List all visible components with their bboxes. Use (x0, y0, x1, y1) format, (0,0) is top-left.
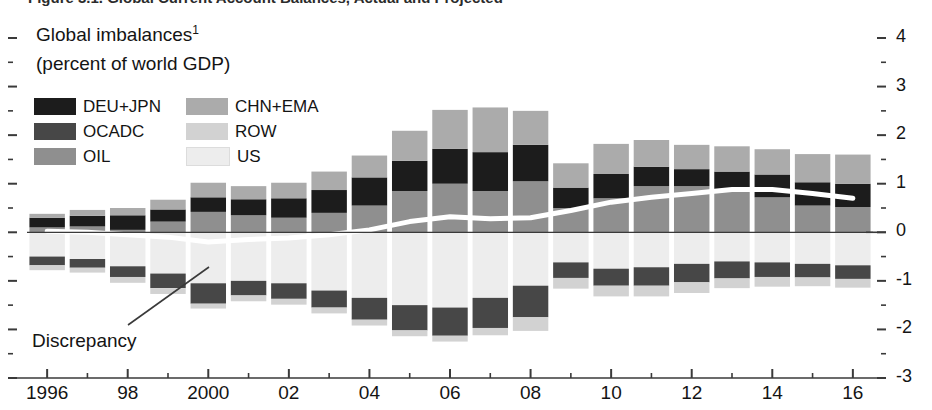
bar-segment-deu-jpn (150, 209, 185, 221)
bar-segment-ocadc (714, 261, 749, 278)
bar-segment-deu-jpn (311, 190, 346, 213)
bar-segment-oil (231, 215, 266, 232)
bar-segment-us (473, 232, 508, 298)
bar-segment-chn-ema (311, 172, 346, 190)
bar-segment-us (553, 232, 588, 262)
bar-segment-row (835, 279, 870, 288)
legend-swatch-oil (34, 148, 76, 165)
chart-title-line1: Global imbalances1 (36, 23, 199, 46)
bar-group (311, 172, 346, 314)
bar-segment-row (70, 268, 105, 273)
bar-segment-chn-ema (150, 200, 185, 210)
legend-label-ocadc: OCADC (83, 123, 144, 140)
legend-swatch-row (186, 123, 228, 140)
bar-segment-row (593, 286, 628, 297)
legend-swatch-us (186, 147, 230, 166)
y-tick-label: -3 (896, 366, 912, 387)
bar-segment-us (795, 232, 830, 264)
bar-segment-row (392, 330, 427, 336)
bar-group (473, 107, 508, 335)
bar-segment-deu-jpn (553, 188, 588, 208)
bar-segment-ocadc (150, 274, 185, 289)
bar-group (553, 163, 588, 288)
bar-segment-deu-jpn (29, 218, 64, 228)
bar-segment-chn-ema (795, 154, 830, 182)
bar-segment-deu-jpn (473, 152, 508, 191)
bar-segment-us (432, 232, 467, 307)
bar-segment-oil (271, 218, 306, 233)
bar-segment-chn-ema (553, 163, 588, 187)
bar-segment-row (513, 317, 548, 331)
bar-segment-deu-jpn (674, 169, 709, 186)
bar-segment-ocadc (311, 291, 346, 308)
bar-segment-ocadc (70, 259, 105, 268)
bar-segment-chn-ema (835, 155, 870, 184)
bar-segment-row (29, 265, 64, 270)
bar-segment-chn-ema (755, 149, 790, 174)
bar-group (835, 155, 870, 288)
bar-group (513, 111, 548, 331)
bar-segment-deu-jpn (191, 197, 226, 212)
x-tick-label: 16 (842, 382, 863, 404)
x-tick-label: 06 (439, 382, 460, 404)
legend-label-row: ROW (235, 123, 277, 140)
bar-segment-row (311, 308, 346, 314)
bar-segment-row (271, 299, 306, 305)
bar-segment-ocadc (191, 283, 226, 303)
bar-segment-ocadc (271, 283, 306, 299)
bar-segment-chn-ema (593, 144, 628, 174)
bar-group (392, 131, 427, 336)
bar-segment-row (231, 295, 266, 301)
bar-segment-oil (311, 213, 346, 232)
bar-segment-ocadc (835, 265, 870, 279)
x-axis-ticks (47, 369, 853, 378)
bar-segment-chn-ema (513, 111, 548, 145)
legend-swatch-deu-jpn (34, 98, 76, 115)
bar-segment-chn-ema (634, 140, 669, 167)
bar-segment-oil (513, 181, 548, 232)
bar-segment-oil (755, 197, 790, 232)
legend-label-chn-ema: CHN+EMA (235, 98, 319, 115)
y-tick-label: 3 (896, 75, 906, 96)
bar-group (674, 145, 709, 293)
legend-swatch-chn-ema (186, 98, 228, 115)
bar-segment-row (473, 328, 508, 335)
bar-segment-ocadc (29, 257, 64, 266)
bar-segment-ocadc (432, 308, 467, 336)
bar-group (634, 140, 669, 296)
bar-segment-deu-jpn (231, 199, 266, 215)
bar-segment-ocadc (593, 269, 628, 286)
y-tick-label: 4 (896, 26, 906, 47)
bar-segment-us (352, 232, 387, 298)
bar-segment-oil (432, 184, 467, 233)
legend-item-row: ROW (186, 119, 319, 144)
chart-root: Figure 3.1. Global Current Account Balan… (0, 0, 932, 410)
legend-label-oil: OIL (83, 148, 110, 165)
bar-segment-deu-jpn (352, 177, 387, 205)
bar-segment-ocadc (392, 305, 427, 330)
bar-segment-row (110, 277, 145, 283)
bar-segment-deu-jpn (70, 216, 105, 227)
bar-segment-chn-ema (674, 145, 709, 169)
bar-segment-ocadc (795, 264, 830, 278)
bar-group (352, 156, 387, 326)
bar-segment-row (352, 320, 387, 326)
y-tick-label: -1 (896, 269, 912, 290)
legend-column-left: DEU+JPN OCADC OIL (34, 94, 161, 169)
bar-group (150, 200, 185, 294)
bar-segment-row (755, 277, 790, 287)
bar-segment-us (70, 232, 105, 259)
bar-segment-us (593, 232, 628, 268)
legend-item-ocadc: OCADC (34, 119, 161, 144)
bar-group (795, 154, 830, 286)
bar-segment-row (795, 277, 830, 286)
bar-segment-row (714, 278, 749, 288)
bar-segment-row (432, 336, 467, 342)
bar-segment-deu-jpn (755, 174, 790, 197)
bar-segment-ocadc (674, 264, 709, 282)
legend-item-chn-ema: CHN+EMA (186, 94, 319, 119)
x-tick-label: 04 (359, 382, 380, 404)
bar-segment-chn-ema (271, 183, 306, 199)
bar-segment-oil (714, 191, 749, 232)
bar-segment-ocadc (755, 262, 790, 277)
